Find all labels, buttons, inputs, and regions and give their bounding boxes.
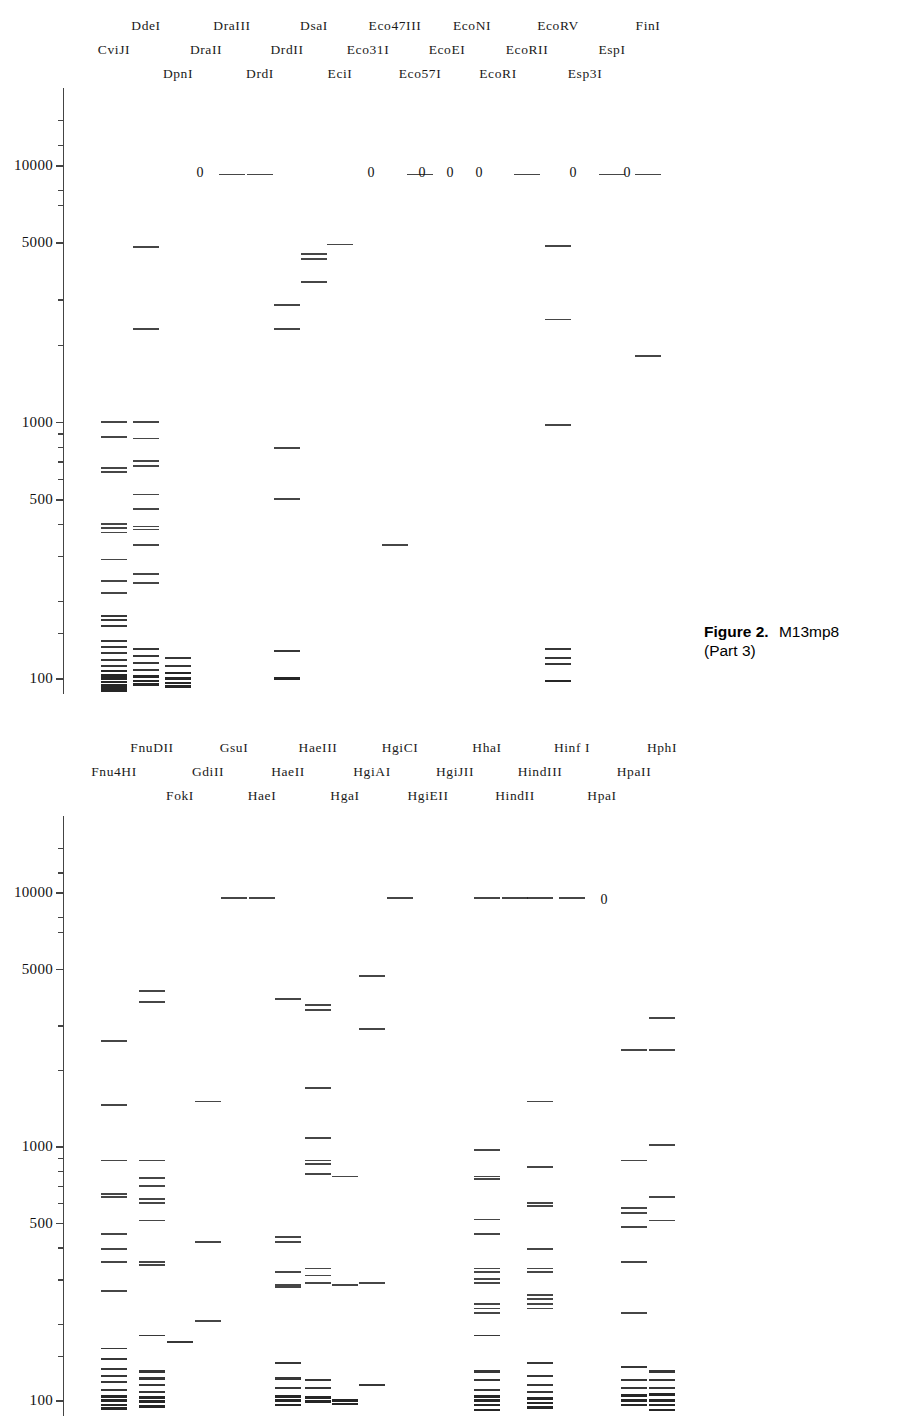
gel-band [621,1387,647,1390]
gel-band [101,1368,127,1370]
gel-panel-part4: Fnu4HIFnuDIIFokIGdiIIGsuIHaeIHaeIIHaeIII… [0,713,903,1426]
gel-band [275,1377,301,1379]
y-tick-minor [58,1186,64,1187]
gel-band [139,1198,165,1200]
gel-band [527,897,553,899]
y-tick-label: 5000 [0,234,53,251]
gel-band [474,1149,500,1151]
gel-band [101,532,127,534]
zero-cut-marker: 0 [197,165,204,181]
gel-band [101,619,127,621]
gel-band [559,897,585,899]
gel-band [327,244,353,246]
gel-band [133,328,159,330]
gel-band [474,1409,500,1412]
gel-band [101,625,127,627]
gel-band [139,1160,165,1162]
zero-cut-marker: 0 [624,165,631,181]
gel-band [527,1406,553,1409]
y-tick-label: 100 [0,670,53,687]
zero-cut-marker: 0 [601,892,608,908]
gel-band [621,1261,647,1263]
gel-band [305,1396,331,1399]
gel-band [527,1248,553,1250]
gel-band [332,1399,358,1402]
gel-band [133,669,159,672]
gel-band [275,1241,301,1243]
y-tick-label: 1000 [0,1138,53,1155]
gel-band [139,1384,165,1386]
gel-band [101,1404,127,1407]
gel-band [133,544,159,546]
gel-band [101,615,127,617]
gel-band [101,1290,127,1292]
gel-band [387,897,413,899]
gel-band [101,471,127,473]
gel-band [474,1271,500,1273]
y-tick-minor [58,447,64,448]
caption-sub-part3: (Part 3) [704,641,839,660]
y-tick-major [56,1223,64,1225]
gel-band [527,1375,553,1377]
gel-band [275,1395,301,1398]
gel-band [101,1040,127,1042]
gel-band [527,1402,553,1405]
gel-band [621,1399,647,1402]
gel-band [139,1377,165,1379]
gel-band [649,1220,675,1222]
gel-band [275,998,301,1000]
gel-band [167,1341,193,1343]
gel-band [139,1335,165,1337]
caption-bold-part3: Figure 2. [704,623,769,640]
y-tick-minor [58,633,64,634]
gel-band [165,685,191,688]
gel-band [133,655,159,657]
gel-band [527,1303,553,1305]
caption-title-part3: M13mp8 [779,623,839,640]
gel-band [195,1241,221,1243]
gel-panel-part3: CviJIDdeIDpnIDraIIDraIIIDrdIDrdIIDsaIEci… [0,0,903,713]
gel-band [101,467,127,469]
y-tick-label: 10000 [0,157,53,174]
zero-cut-marker: 0 [447,165,454,181]
y-tick-minor [58,848,64,849]
gel-band [621,1379,647,1381]
y-tick-minor [58,1324,64,1325]
y-tick-minor [58,205,64,206]
gel-band [527,1268,553,1270]
gel-band [474,1389,500,1392]
gel-band [249,897,275,899]
gel-band [359,1028,385,1030]
gel-band [133,494,159,496]
gel-band [621,1394,647,1397]
gel-band [527,1308,553,1310]
gel-band [274,677,300,680]
gel-band [274,498,300,500]
gel-band [101,659,127,661]
gel-band [101,1160,127,1162]
gel-band [527,1294,553,1296]
gel-band [133,529,159,531]
gel-band [621,1160,647,1162]
gel-band [133,662,159,664]
gel-band [274,447,300,449]
gel-band [101,1399,127,1402]
gel-band [247,174,273,176]
gel-band [101,665,127,668]
gel-band [332,1284,358,1286]
y-tick-minor [58,461,64,462]
gel-band [133,648,159,650]
gel-band [101,1193,127,1195]
gel-band [649,1049,675,1051]
gel-band [139,1001,165,1003]
gel-band [527,1391,553,1394]
gel-band [305,1004,331,1006]
gel-band [527,1101,553,1103]
y-tick-minor [58,917,64,918]
gel-band [274,328,300,330]
gel-band [635,355,661,357]
gel-band [359,1282,385,1284]
gel-band [101,1348,127,1350]
gel-band [545,657,571,659]
gel-band [101,681,127,684]
